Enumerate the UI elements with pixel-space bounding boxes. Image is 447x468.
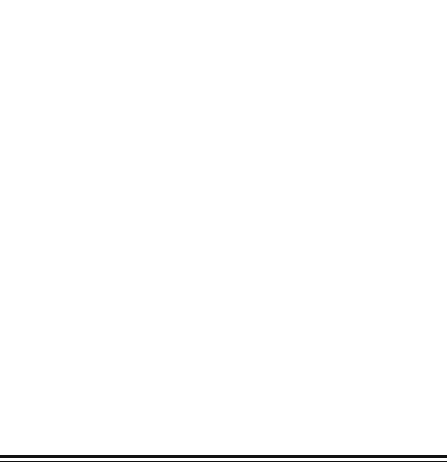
chart-top-canvas	[0, 0, 447, 230]
chart-objective-throughput	[0, 0, 447, 230]
figure-page	[0, 0, 447, 468]
footer-rule	[0, 455, 447, 458]
chart-fitness-evaluations	[0, 230, 447, 455]
footer-rule-thin	[0, 461, 447, 462]
chart-bottom-canvas	[0, 230, 447, 455]
